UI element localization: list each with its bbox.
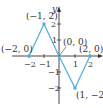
x-tick-1: 1 [73,60,78,69]
x-tick-neg2: −2 [24,60,36,69]
y-axis-label: y [51,4,58,14]
point-neg1-2 [42,22,46,26]
function-graph: (−2, 0) (−1, 2) (0, 0) (2, 0) (1, −2) y … [0,0,103,108]
label-1-neg2: (1, −2) [76,90,103,100]
y-tick-neg1: −1 [48,68,60,77]
x-tick-2: 2 [88,60,93,69]
origin-leader-line [59,47,66,56]
point-2-0 [88,54,92,58]
y-tick-neg2: −2 [48,84,60,93]
label-2-0: (2, 0) [79,44,103,54]
x-axis-arrow-icon [98,54,103,58]
point-neg2-0 [27,54,31,58]
label-neg2-0: (−2, 0) [1,44,33,54]
y-tick-2: 2 [51,20,56,29]
y-tick-1: 1 [52,36,57,45]
